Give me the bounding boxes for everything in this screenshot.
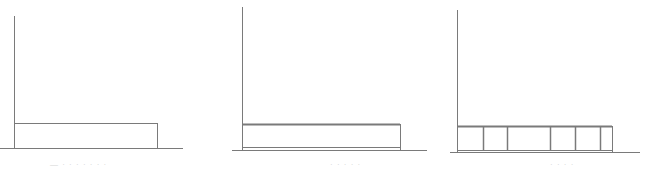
- panel-3-caption: · · · ·: [550, 160, 574, 169]
- panel-2-caption: · · · · ·: [330, 160, 361, 169]
- panel-1-caption: — · · · · · · ·: [50, 160, 107, 169]
- diagram-canvas: [0, 0, 647, 173]
